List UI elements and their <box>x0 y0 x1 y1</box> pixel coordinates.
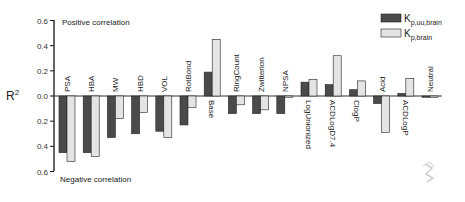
category-label: ClogP <box>352 100 361 122</box>
category-label: ACDLogP <box>401 100 410 136</box>
bar-neutral-kp <box>430 96 438 97</box>
positive-correlation-annotation: Positive correlation <box>62 18 130 27</box>
y-tick-label: 0.0 <box>37 92 49 101</box>
bar-neutral-kpuu <box>422 96 430 97</box>
bar-mw-kp <box>115 96 123 119</box>
bar-vol-kpuu <box>156 96 164 131</box>
category-label: Zwitterion <box>257 57 266 92</box>
category-label: Base <box>207 100 216 119</box>
bar-rotbond-kpuu <box>180 96 188 125</box>
category-label: VOL <box>160 75 169 92</box>
category-label: NPSA <box>281 70 290 92</box>
bars <box>59 39 438 161</box>
bar-acdlogp-kpuu <box>398 93 406 96</box>
bar-ringcount-kpuu <box>228 96 236 114</box>
bar-base-kpuu <box>204 72 212 96</box>
bar-rotbond-kp <box>188 96 196 107</box>
bar-psa-kpuu <box>59 96 67 153</box>
bar-acdlogp-kp <box>406 78 414 96</box>
negative-correlation-annotation: Negative correlation <box>60 175 131 184</box>
bar-npsa-kp <box>285 96 293 97</box>
bar-clogp-kpuu <box>349 90 357 96</box>
y-axis-label: R2 <box>6 88 20 103</box>
bar-chart: 0.60.40.20.00.20.40.6 PSAHBAMWHBDVOLRotB… <box>0 0 465 202</box>
bar-hba-kp <box>91 96 99 156</box>
y-tick-label: 0.4 <box>37 142 49 151</box>
category-label: Neutral <box>426 66 435 92</box>
bar-ringcount-kp <box>236 96 244 105</box>
y-tick-label: 0.2 <box>37 67 49 76</box>
category-label: PSA <box>63 75 72 92</box>
legend-swatch <box>381 29 401 37</box>
bar-logunionized-kp <box>309 80 317 96</box>
category-label: RotBond <box>184 61 193 92</box>
bar-vol-kp <box>164 96 172 138</box>
bar-base-kp <box>212 39 220 96</box>
bar-npsa-kpuu <box>277 96 285 114</box>
bar-hbd-kp <box>140 96 148 112</box>
category-label: MW <box>111 77 120 92</box>
bar-acid-kp <box>382 96 390 132</box>
bar-mw-kpuu <box>107 96 115 138</box>
category-label: HBA <box>87 75 96 92</box>
watermark-logo-icon <box>423 162 434 182</box>
legend: Kp,uu,brainKp,brain <box>381 13 442 42</box>
category-label: LogUnionized <box>304 100 313 149</box>
bar-zwitterion-kpuu <box>253 96 261 114</box>
bar-zwitterion-kp <box>261 96 269 110</box>
category-label: RingCount <box>232 53 241 92</box>
legend-label: Kp,uu,brain <box>404 13 442 27</box>
bar-clogp-kp <box>357 81 365 96</box>
y-tick-label: 0.2 <box>37 117 49 126</box>
legend-swatch <box>381 14 401 22</box>
y-tick-label: 0.4 <box>37 42 49 51</box>
legend-label: Kp,brain <box>404 28 432 42</box>
y-tick-label: 0.6 <box>37 168 49 177</box>
category-label: HBD <box>136 75 145 92</box>
category-label: ACDLogD7.4 <box>328 100 337 148</box>
bar-psa-kp <box>67 96 75 161</box>
bar-acid-kpuu <box>374 96 382 104</box>
bar-hbd-kpuu <box>132 96 140 134</box>
bar-logunionized-kpuu <box>301 82 309 96</box>
bar-acdlogd7-4-kp <box>333 56 341 96</box>
bar-acdlogd7-4-kpuu <box>325 85 333 96</box>
category-label: Acid <box>378 76 387 92</box>
bar-hba-kpuu <box>83 96 91 153</box>
y-tick-label: 0.6 <box>37 17 49 26</box>
